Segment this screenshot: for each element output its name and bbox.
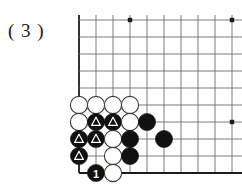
go-stone-black[interactable] xyxy=(121,147,138,164)
stone-disc xyxy=(104,164,121,181)
stone-disc xyxy=(138,113,155,130)
go-stone-white[interactable] xyxy=(70,96,87,113)
go-stone-white[interactable] xyxy=(104,130,121,147)
stone-disc xyxy=(70,96,87,113)
go-stone-white[interactable] xyxy=(104,147,121,164)
stone-disc xyxy=(87,113,104,130)
stone-disc xyxy=(70,113,87,130)
stone-disc xyxy=(70,130,87,147)
go-stone-black[interactable] xyxy=(155,130,172,147)
stone-disc xyxy=(104,147,121,164)
stones-layer[interactable]: 1 xyxy=(70,96,172,181)
go-stone-black[interactable] xyxy=(87,113,104,130)
stone-disc xyxy=(155,130,172,147)
go-stone-black[interactable]: 1 xyxy=(87,164,104,181)
go-stone-black[interactable] xyxy=(70,147,87,164)
go-stone-white[interactable] xyxy=(104,164,121,181)
go-stone-black[interactable] xyxy=(104,113,121,130)
go-stone-white[interactable] xyxy=(87,96,104,113)
stone-disc xyxy=(121,113,138,130)
star-point xyxy=(230,120,234,124)
go-stone-black[interactable] xyxy=(70,130,87,147)
go-stone-white[interactable] xyxy=(121,96,138,113)
go-stone-black[interactable] xyxy=(138,113,155,130)
go-stone-black[interactable] xyxy=(121,130,138,147)
go-stone-white[interactable] xyxy=(121,113,138,130)
star-point xyxy=(128,18,132,22)
stone-disc xyxy=(104,130,121,147)
stone-disc xyxy=(121,96,138,113)
stone-disc xyxy=(104,96,121,113)
go-board-canvas[interactable]: 1 xyxy=(0,0,242,189)
move-number-label: 1 xyxy=(93,168,99,180)
go-stone-white[interactable] xyxy=(104,96,121,113)
go-stone-black[interactable] xyxy=(87,130,104,147)
stone-disc xyxy=(121,130,138,147)
stone-disc xyxy=(104,113,121,130)
stone-disc xyxy=(121,147,138,164)
star-point xyxy=(230,18,234,22)
stone-disc xyxy=(87,130,104,147)
go-board[interactable]: 1 xyxy=(0,0,242,189)
board-grid xyxy=(79,15,242,173)
go-problem-figure: ( 3 ) 1 xyxy=(0,0,242,189)
stone-disc xyxy=(87,96,104,113)
go-stone-white[interactable] xyxy=(70,113,87,130)
stone-disc xyxy=(70,147,87,164)
